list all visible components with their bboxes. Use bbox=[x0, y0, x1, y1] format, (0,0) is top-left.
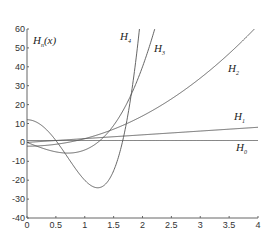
x-tick-label: 2 bbox=[140, 220, 145, 230]
x-tick-label: 4 bbox=[255, 220, 260, 230]
y-tick-label: -40 bbox=[12, 213, 25, 223]
y-tick-label: -10 bbox=[12, 156, 25, 166]
curve-h2 bbox=[27, 25, 258, 146]
x-tick-label: 2.5 bbox=[165, 220, 178, 230]
y-tick-label: 20 bbox=[15, 100, 25, 110]
y-tick-label: 50 bbox=[15, 43, 25, 53]
x-tick-label: 1 bbox=[82, 220, 87, 230]
y-axis-label: Hn(x) bbox=[32, 34, 56, 48]
curves bbox=[27, 0, 258, 188]
label-h2: H2 bbox=[227, 62, 239, 76]
y-tick-label: 30 bbox=[15, 81, 25, 91]
y-tick-label: 0 bbox=[20, 137, 25, 147]
x-tick-label: 0.5 bbox=[50, 220, 63, 230]
x-tick-label: 3 bbox=[198, 220, 203, 230]
curve-h3 bbox=[27, 0, 258, 153]
label-h4: H4 bbox=[119, 30, 131, 44]
x-tick-label: 0 bbox=[24, 220, 29, 230]
curve-labels: H0H1H2H3H4 bbox=[119, 30, 247, 155]
y-tick-label: -20 bbox=[12, 175, 25, 185]
hermite-chart: 00.511.522.533.54-40-30-20-1001020304050… bbox=[0, 0, 275, 242]
x-tick-label: 1.5 bbox=[107, 220, 120, 230]
curve-h4 bbox=[27, 0, 258, 188]
label-h3: H3 bbox=[153, 42, 165, 56]
y-tick-label: 60 bbox=[15, 24, 25, 34]
y-tick-label: 40 bbox=[15, 62, 25, 72]
x-tick-label: 3.5 bbox=[223, 220, 236, 230]
y-tick-label: 10 bbox=[15, 119, 25, 129]
label-h1: H1 bbox=[233, 110, 245, 124]
label-h0: H0 bbox=[235, 141, 247, 155]
y-tick-label: -30 bbox=[12, 194, 25, 204]
